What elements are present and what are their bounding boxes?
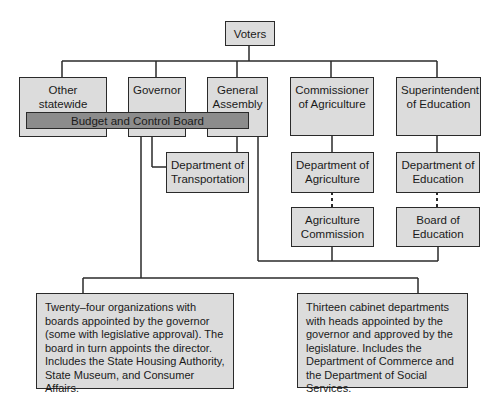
dept-education-box: Department of Education xyxy=(396,152,480,193)
governor-label: Governor xyxy=(133,84,181,96)
voters-label: Voters xyxy=(234,28,267,40)
dept-transportation-box: Department of Transportation xyxy=(166,152,249,193)
dept-agriculture-label: Department of Agriculture xyxy=(296,159,369,185)
superintendent-education-label: Superintendent of Education xyxy=(401,84,479,110)
boards-note-text: Twenty–four organizations with boards ap… xyxy=(45,301,225,394)
dept-education-label: Department of Education xyxy=(402,159,475,185)
cabinet-departments-note: Thirteen cabinet departments with heads … xyxy=(297,293,468,388)
agriculture-commission-label: Agriculture Commission xyxy=(301,214,364,240)
board-education-box: Board of Education xyxy=(396,207,480,247)
general-assembly-label: General Assembly xyxy=(213,84,263,110)
budget-board-label: Budget and Control Board xyxy=(71,115,204,127)
board-education-label: Board of Education xyxy=(412,214,463,240)
dept-agriculture-box: Department of Agriculture xyxy=(291,152,374,193)
budget-control-board-bar: Budget and Control Board xyxy=(26,112,249,129)
cabinet-note-text: Thirteen cabinet departments with heads … xyxy=(306,301,454,394)
voters-box: Voters xyxy=(225,21,275,46)
governor-boards-note: Twenty–four organizations with boards ap… xyxy=(36,293,234,389)
commissioner-agriculture-box: Commissioner of Agriculture xyxy=(290,77,374,136)
agriculture-commission-box: Agriculture Commission xyxy=(291,207,374,247)
commissioner-agriculture-label: Commissioner of Agriculture xyxy=(295,84,369,110)
dept-transportation-label: Department of Transportation xyxy=(171,159,245,185)
superintendent-education-box: Superintendent of Education xyxy=(396,77,481,136)
